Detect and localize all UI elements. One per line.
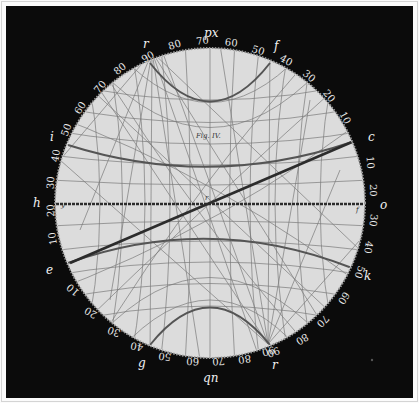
figure-title: Fig. IV. [195,132,221,140]
svg-text:40: 40 [49,148,62,162]
pole-label-g: g [138,356,146,370]
svg-text:70: 70 [196,34,210,46]
speck [371,359,373,361]
svg-text:10: 10 [46,231,59,245]
svg-text:80: 80 [237,353,251,366]
svg-text:20: 20 [368,184,379,197]
projection-diagram: Fig. IV. y f r px qn h o r r f i c e k g… [0,0,419,403]
svg-text:80: 80 [167,37,183,51]
pole-label-f: f [273,39,281,53]
pole-label-e: e [46,263,53,277]
svg-text:60: 60 [224,36,238,48]
svg-text:50: 50 [158,350,172,363]
svg-text:80: 80 [294,331,311,347]
svg-text:70: 70 [315,313,332,330]
svg-text:60: 60 [186,356,199,367]
pole-label-c: c [368,130,375,144]
pole-label-i: i [50,130,54,144]
pole-label-h: h [33,196,41,210]
pole-label-r-lower: r [272,358,279,372]
svg-text:40: 40 [362,240,375,254]
svg-text:60: 60 [336,290,352,307]
svg-text:30: 30 [45,176,56,189]
svg-text:10: 10 [364,156,376,170]
svg-text:70: 70 [212,356,225,367]
svg-text:30: 30 [368,214,380,228]
pole-label-qn: qn [203,371,218,385]
svg-text:20: 20 [45,204,56,217]
pole-label-o: o [380,198,387,212]
